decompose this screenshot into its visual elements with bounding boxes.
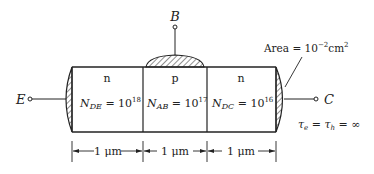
base-terminal-node	[173, 25, 177, 29]
emitter-region-type: n	[103, 72, 110, 85]
svg-text:Area = 10−2cm2: Area = 10−2cm2	[263, 41, 349, 54]
collector-terminal-node	[314, 97, 318, 101]
collector-contact	[276, 67, 283, 132]
lifetime-annotation: τe = τh = ∞	[298, 118, 360, 132]
dimension-collector: 1 μm	[227, 145, 256, 158]
dimension-emitter: 1 μm	[94, 145, 123, 158]
emitter-terminal: E	[15, 92, 66, 107]
base-terminal: B	[169, 9, 180, 55]
bjt-diagram: B E C n p n NDE = 1018 NAB = 1017 NDC = …	[0, 0, 374, 174]
collector-terminal: C	[284, 92, 334, 107]
emitter-terminal-node	[28, 97, 32, 101]
emitter-doping: NDE = 1018	[79, 96, 141, 111]
base-contact	[146, 55, 204, 67]
base-region-type: p	[171, 72, 178, 85]
collector-doping: NDC = 1016	[211, 96, 274, 111]
emitter-contact	[66, 67, 72, 132]
base-label: B	[169, 9, 180, 24]
dimension-base: 1 μm	[161, 145, 190, 158]
base-doping: NAB = 1017	[146, 96, 207, 111]
collector-label: C	[324, 92, 334, 107]
emitter-label: E	[15, 92, 26, 107]
collector-region-type: n	[237, 72, 244, 85]
